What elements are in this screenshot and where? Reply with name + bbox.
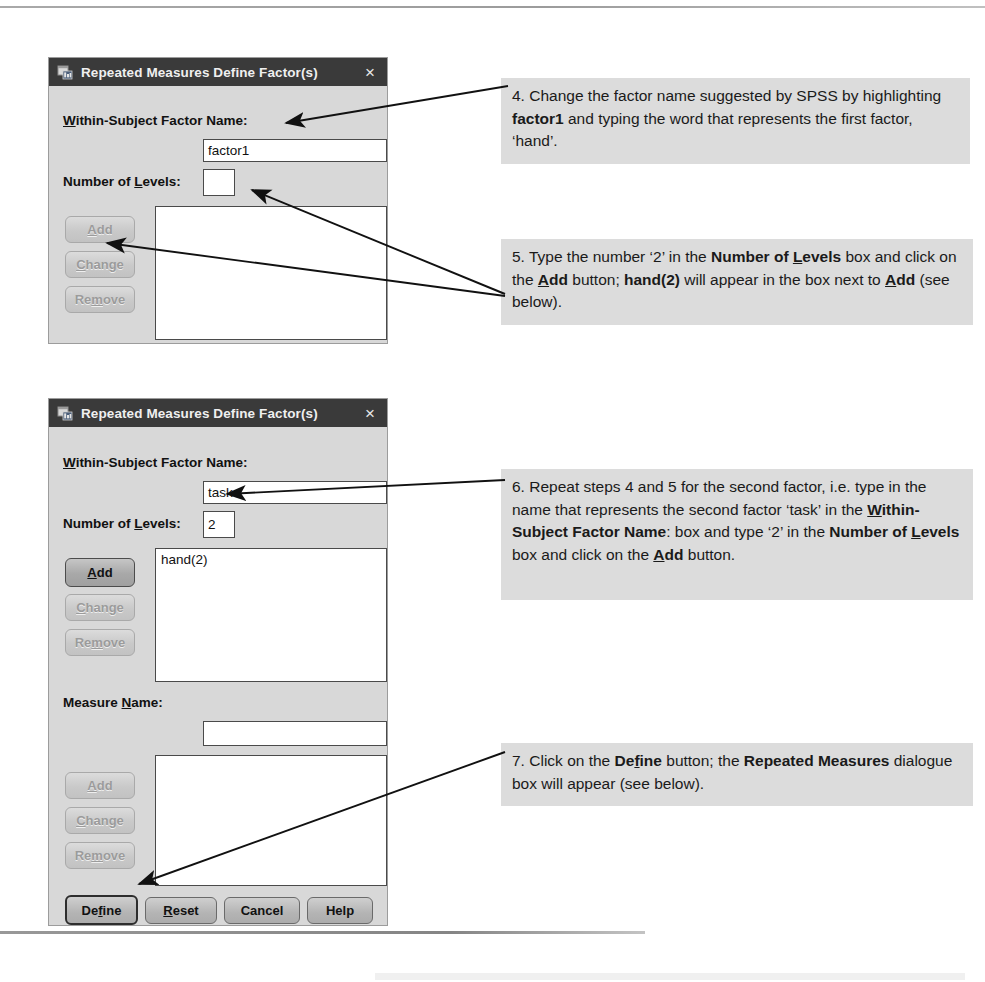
measure-label-pre: Measure <box>63 695 122 710</box>
repeated-measures-define-factors-dialog-2[interactable]: Repeated Measures Define Factor(s) × Wit… <box>48 398 388 926</box>
measure-label-mnemonic: N <box>122 695 132 710</box>
within-subject-label-rest: ithin-Subject Factor Name: <box>76 113 248 128</box>
repeated-measures-define-factors-dialog-1[interactable]: Repeated Measures Define Factor(s) × Wit… <box>48 57 388 344</box>
change-button[interactable]: Change <box>65 594 135 621</box>
measure-change-button-mnemonic: C <box>76 813 85 828</box>
measure-change-button-label: hange <box>86 813 124 828</box>
levels-label-mnemonic: L <box>134 174 142 189</box>
remove-button-mnemonic: m <box>91 292 103 307</box>
levels-label-mnemonic: L <box>134 516 142 531</box>
measure-change-button[interactable]: Change <box>65 807 135 834</box>
page-root: Repeated Measures Define Factor(s) × Wit… <box>0 0 985 982</box>
measure-remove-button-mnemonic: m <box>91 848 103 863</box>
within-subject-factor-name-label: Within-Subject Factor Name: <box>63 455 247 470</box>
measure-add-button-mnemonic: A <box>87 778 96 793</box>
remove-button-label-post: ove <box>103 292 125 307</box>
help-button[interactable]: Help <box>307 897 373 924</box>
reset-button[interactable]: Reset <box>145 897 217 924</box>
spss-window-icon <box>57 65 74 80</box>
define-button-label-post: ine <box>103 903 122 918</box>
dialog-titlebar[interactable]: Repeated Measures Define Factor(s) × <box>49 58 387 86</box>
levels-label-post: evels: <box>143 174 181 189</box>
help-button-label: Help <box>326 903 354 918</box>
measure-add-button[interactable]: Add <box>65 772 135 799</box>
add-button-mnemonic: A <box>87 222 96 237</box>
note-step-6: 6. Repeat steps 4 and 5 for the second f… <box>501 469 973 600</box>
within-subject-label-rest: ithin-Subject Factor Name: <box>76 455 248 470</box>
close-icon[interactable]: × <box>359 64 381 81</box>
spss-window-icon <box>57 406 74 421</box>
cancel-button[interactable]: Cancel <box>224 897 300 924</box>
measure-name-input[interactable] <box>203 721 387 746</box>
bottom-shadow-band <box>375 973 965 980</box>
note-step-4: 4. Change the factor name suggested by S… <box>501 78 970 164</box>
add-button[interactable]: Add <box>65 216 135 243</box>
remove-button[interactable]: Remove <box>65 629 135 656</box>
note-step-5: 5. Type the number ‘2’ in the Number of … <box>501 239 973 325</box>
define-button-label-pre: De <box>82 903 99 918</box>
measure-remove-button-label-post: ove <box>103 848 125 863</box>
factor-name-value: task <box>208 485 233 500</box>
measure-remove-button[interactable]: Remove <box>65 842 135 869</box>
change-button-label: hange <box>86 257 124 272</box>
note-step-7: 7. Click on the Define button; the Repea… <box>501 743 973 806</box>
dialog-body: Within-Subject Factor Name: factor1 Numb… <box>49 86 387 343</box>
dialog-titlebar[interactable]: Repeated Measures Define Factor(s) × <box>49 399 387 427</box>
close-icon[interactable]: × <box>359 405 381 422</box>
remove-button-label-pre: Re <box>75 635 92 650</box>
change-button-mnemonic: C <box>76 600 85 615</box>
measure-add-button-label: dd <box>97 778 113 793</box>
note-step-6-text: 6. Repeat steps 4 and 5 for the second f… <box>512 478 959 563</box>
define-button[interactable]: Define <box>65 895 138 925</box>
measure-list[interactable] <box>155 755 387 886</box>
add-button[interactable]: Add <box>65 558 135 587</box>
note-step-7-text: 7. Click on the Define button; the Repea… <box>512 752 952 792</box>
levels-label-pre: Number of <box>63 174 134 189</box>
factor-name-input[interactable]: factor1 <box>203 139 387 162</box>
note-step-4-text: 4. Change the factor name suggested by S… <box>512 87 941 149</box>
measure-name-label: Measure Name: <box>63 695 163 710</box>
dialog-title: Repeated Measures Define Factor(s) <box>81 406 359 421</box>
number-of-levels-label: Number of Levels: <box>63 516 181 531</box>
number-of-levels-label: Number of Levels: <box>63 174 181 189</box>
factor-list[interactable]: hand(2) <box>155 548 387 682</box>
add-button-mnemonic: A <box>87 565 96 580</box>
remove-button-label-post: ove <box>103 635 125 650</box>
add-button-label: dd <box>97 222 113 237</box>
number-of-levels-value: 2 <box>208 517 216 532</box>
levels-label-pre: Number of <box>63 516 134 531</box>
factor-name-value: factor1 <box>208 143 249 158</box>
number-of-levels-input[interactable]: 2 <box>203 511 235 538</box>
within-subject-factor-name-label: Within-Subject Factor Name: <box>63 113 247 128</box>
change-button-label: hange <box>86 600 124 615</box>
measure-label-post: ame: <box>131 695 163 710</box>
within-subject-label-mnemonic: W <box>63 455 76 470</box>
list-item[interactable]: hand(2) <box>161 552 386 567</box>
reset-button-label: eset <box>173 903 199 918</box>
remove-button[interactable]: Remove <box>65 286 135 313</box>
change-button[interactable]: Change <box>65 251 135 278</box>
factor-list[interactable] <box>155 206 387 340</box>
remove-button-label-pre: Re <box>75 292 92 307</box>
remove-button-mnemonic: m <box>91 635 103 650</box>
factor-name-input[interactable]: task <box>203 481 387 504</box>
note-step-5-text: 5. Type the number ‘2’ in the Number of … <box>512 248 957 310</box>
within-subject-label-mnemonic: W <box>63 113 76 128</box>
top-divider <box>0 6 985 8</box>
dialog-title: Repeated Measures Define Factor(s) <box>81 65 359 80</box>
reset-button-mnemonic: R <box>163 903 172 918</box>
cancel-button-label: Cancel <box>241 903 284 918</box>
change-button-mnemonic: C <box>76 257 85 272</box>
bottom-divider <box>0 931 645 934</box>
measure-remove-button-label-pre: Re <box>75 848 92 863</box>
number-of-levels-input[interactable] <box>203 169 235 196</box>
dialog-body: Within-Subject Factor Name: task Number … <box>49 427 387 925</box>
levels-label-post: evels: <box>143 516 181 531</box>
add-button-label: dd <box>97 565 113 580</box>
